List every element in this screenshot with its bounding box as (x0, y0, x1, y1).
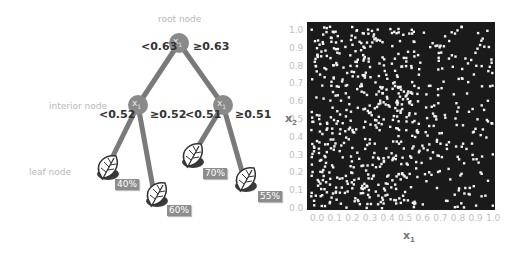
leaf-node-caption: leaf node (29, 167, 71, 177)
right-node-right-split: ≥0.51 (235, 108, 271, 121)
y-tick-label: 0.1 (289, 185, 303, 195)
x-tick-label: 0.1 (328, 213, 342, 223)
root-left-split: <0.63 (141, 40, 177, 53)
scatter-plot-area (307, 22, 495, 210)
root-right-split: ≥0.63 (193, 40, 229, 53)
leaf-value-3: 70% (203, 168, 227, 179)
x-tick-label: 0.2 (345, 213, 359, 223)
leaf-icon (235, 168, 257, 192)
x-axis-label: x1 (403, 229, 415, 244)
y-tick-label: 0.7 (289, 78, 303, 88)
y-tick-label: 0.9 (289, 43, 303, 53)
y-axis-label: x2 (285, 112, 297, 127)
x-tick-label: 0.3 (363, 213, 377, 223)
leaf-icon (97, 156, 119, 180)
scatter-points (307, 22, 495, 210)
leaf-value-4: 55% (258, 191, 282, 202)
y-tick-label: 0.8 (289, 61, 303, 71)
x-tick-label: 0.6 (416, 213, 430, 223)
left-node-right-split: ≥0.52 (150, 108, 186, 121)
x-tick-label: 0.9 (468, 213, 482, 223)
x-tick-label: 0.0 (310, 213, 324, 223)
y-tick-label: 0.3 (289, 150, 303, 160)
root-node-caption: root node (158, 14, 201, 24)
x-tick-label: 0.5 (398, 213, 412, 223)
y-tick-label: 0.6 (289, 96, 303, 106)
leaf-value-2: 60% (167, 205, 191, 216)
leaf-icon (146, 183, 168, 207)
y-tick-label: 1.0 (289, 25, 303, 35)
x-tick-label: 0.4 (380, 213, 394, 223)
x-tick-label: 0.7 (433, 213, 447, 223)
leaf-icon (182, 144, 204, 168)
right-node-left-split: <0.51 (185, 108, 221, 121)
x-tick-label: 1.0 (486, 213, 500, 223)
leaf-value-1: 40% (115, 179, 139, 190)
x-tick-label: 0.8 (451, 213, 465, 223)
decision-tree-graphic (0, 0, 290, 254)
y-tick-label: 0.4 (289, 132, 303, 142)
y-tick-label: 0.0 (289, 203, 303, 213)
y-tick-label: 0.2 (289, 167, 303, 177)
left-node-left-split: <0.52 (99, 108, 135, 121)
